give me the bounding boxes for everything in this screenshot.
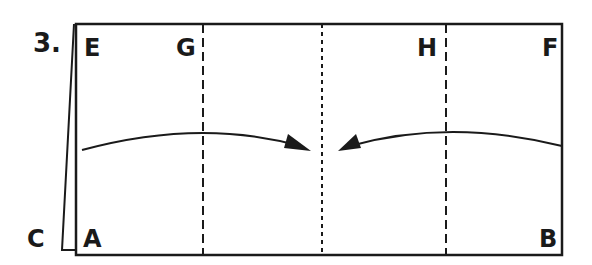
left-flap-arrow	[82, 133, 300, 150]
label-C: C	[27, 227, 45, 251]
label-E: E	[84, 36, 100, 60]
label-H: H	[417, 36, 437, 60]
left-arrowhead-icon	[284, 134, 311, 151]
label-F: F	[542, 36, 558, 60]
paper-outline	[76, 24, 562, 255]
label-A: A	[83, 227, 102, 251]
right-flap-arrow	[350, 132, 562, 146]
right-arrowhead-icon	[338, 134, 361, 151]
label-G: G	[176, 36, 196, 60]
label-B: B	[539, 227, 557, 251]
step-number: 3.	[33, 30, 61, 56]
